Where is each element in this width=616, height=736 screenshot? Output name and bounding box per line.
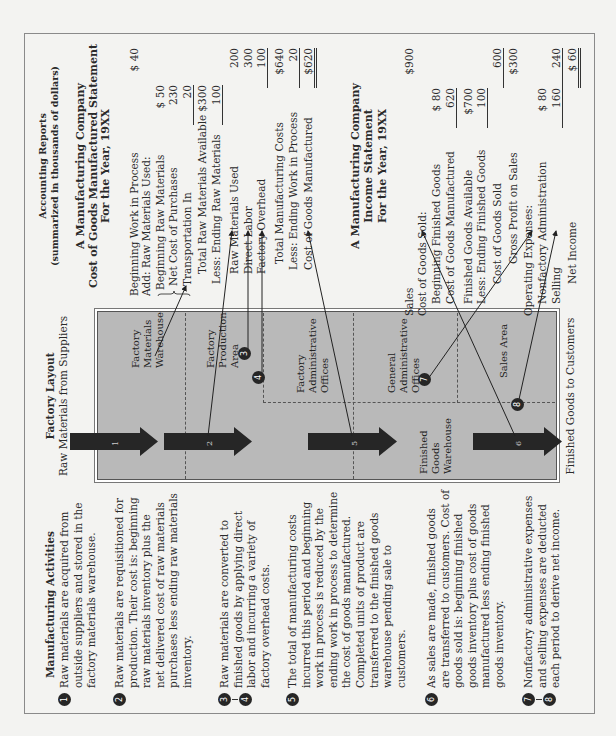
activity-line: labor and incurring a variety of	[245, 488, 259, 688]
income-heading-title: Income Statement	[363, 36, 375, 296]
activity-line: goods sold is: beginning finished	[452, 488, 466, 688]
income-row-label: Sales	[403, 288, 415, 316]
badge-1-icon: 1	[58, 693, 71, 706]
layout-title: Factory Layout	[44, 311, 56, 481]
layout-bottom-label: Finished Goods to Customers	[564, 311, 576, 481]
cgm-row-amount: 230	[167, 85, 179, 125]
area-production: Factory Production Area	[205, 312, 241, 368]
activity-line: raw materials inventory plus the	[140, 488, 154, 688]
diagram-badge-8-icon: 8	[511, 398, 524, 411]
activity-line: net delivered cost of raw materials	[154, 488, 168, 688]
income-row-label: Cost of Goods Sold	[491, 183, 503, 284]
area-factory-admin: Factory Administrative Offices	[295, 318, 331, 393]
activity-line: Completed units of product are	[354, 488, 368, 688]
cgm-row-label: Direct Labor	[242, 206, 254, 274]
diagram-badge-7-icon: 7	[418, 373, 431, 386]
cgm-row-amount: 100	[255, 48, 268, 88]
activity-line: goods inventory.	[493, 488, 507, 688]
income-row-amount: 620	[444, 88, 457, 128]
arrow-label-1: 1	[110, 441, 122, 446]
cgm-row-label: Factory Overhead	[255, 179, 267, 274]
income-row-amount: 240	[550, 48, 563, 88]
reports-title: Accounting Reports	[37, 36, 49, 296]
cgm-row-label: Total Raw Materials Available	[196, 115, 208, 274]
activity-line: factory overhead costs.	[259, 488, 273, 688]
partition-line	[263, 313, 264, 403]
activity-line: work in process is reduced by the	[313, 488, 327, 688]
activity-line: and selling expenses are deducted	[536, 488, 550, 688]
activity-line: finished goods by applying direct	[232, 488, 246, 688]
cgm-row-amount: 200	[228, 48, 240, 88]
diagram-badge-3-icon: 3	[238, 347, 251, 360]
income-row-label: Cost of Goods Sold:	[416, 212, 428, 316]
cgm-row-label: Total Manufacturing Costs	[273, 122, 285, 264]
area-general-admin: General Administrative Offices	[386, 318, 422, 393]
income-row-amount: $ 80	[536, 88, 548, 128]
area-materials-warehouse: Factory Materials Warehouse	[130, 312, 166, 368]
activity-line: Raw materials are requisitioned for	[113, 488, 127, 688]
cgm-row-amount: $640	[273, 48, 285, 88]
badge-6-icon: 6	[425, 693, 438, 706]
activity-line: The total of manufacturing costs	[286, 488, 300, 688]
cgm-row-label: Raw Materials Used	[228, 166, 240, 274]
cgm-row-label: Less: Ending Raw Materials	[210, 134, 222, 284]
arrow-label-6: 6	[513, 441, 525, 446]
income-row-label: Less: Ending Finished Goods	[475, 150, 487, 305]
activity-line: are transferred to customers. Cost of	[439, 488, 453, 688]
activity-line: incurred this period and beginning	[300, 488, 314, 688]
badge-8-icon: 8	[543, 693, 556, 706]
badge-2-icon: 2	[113, 693, 126, 706]
activity-line: Raw materials are converted to	[218, 488, 232, 688]
cgm-row-amount: $300	[196, 85, 208, 125]
cgm-row-amount: 300	[242, 48, 254, 88]
activity-line: ending work in process to determine	[327, 488, 341, 688]
activity-line: customers.	[395, 488, 409, 688]
activity-line: inventory.	[181, 488, 195, 688]
activity-line: Nonfactory administrative expenses	[522, 488, 536, 688]
cgm-row-label: Less: Ending Work in Process	[287, 112, 299, 270]
page-content-rotated: Manufacturing Activities 1 Raw materials…	[0, 0, 616, 736]
cgm-row-amount: $ 50	[154, 85, 166, 125]
cgm-heading-company: A Manufacturing Company	[75, 36, 87, 296]
activity-line: each period to derive net income.	[549, 488, 563, 688]
income-row-amount: $900	[403, 48, 415, 88]
cgm-row-amount: 100	[210, 85, 223, 125]
income-row-amount: $ 80	[430, 88, 442, 128]
income-row-label: Operating Expenses:	[522, 205, 534, 316]
area-finished-goods-warehouse: Finished Goods Warehouse	[418, 418, 454, 474]
activity-line: warehouse pending sale to	[381, 488, 395, 688]
income-row-amount: 100	[475, 88, 488, 128]
partition-line	[457, 313, 458, 403]
area-sales: Sales Area	[498, 324, 510, 378]
badge-4-icon: 4	[239, 693, 252, 706]
cgm-row-amount: $ 40	[128, 48, 140, 88]
badge-3-icon: 3	[218, 693, 231, 706]
activities-title: Manufacturing Activities	[44, 531, 56, 678]
income-row-amount: $700	[462, 88, 474, 128]
reports-subtitle: (summarized in thousands of dollars)	[49, 36, 61, 296]
cgm-row-amount: 20	[287, 48, 300, 88]
scanned-page: Manufacturing Activities 1 Raw materials…	[0, 0, 616, 736]
cgm-row-label: Transportation In	[181, 192, 193, 286]
activity-line: Raw materials are acquired from	[58, 488, 72, 688]
badge-5-icon: 5	[286, 693, 299, 706]
activity-line: goods inventory plus cost of goods	[466, 488, 480, 688]
cgm-row-label: Net Cost of Purchases	[167, 167, 179, 286]
badge-range-dash	[536, 699, 542, 700]
activity-line: factory materials warehouse.	[85, 488, 99, 688]
income-row-label: Net Income	[566, 222, 578, 284]
income-row-amount: 160	[550, 88, 563, 128]
activity-line: As sales are made, finished goods	[425, 488, 439, 688]
activity-line: manufactured less ending finished	[479, 488, 493, 688]
activity-line: outside suppliers and stored in the	[72, 488, 86, 688]
activity-line: the cost of goods manufactured.	[340, 488, 354, 688]
cgm-row-amount: 20	[181, 85, 194, 125]
income-row-label: Beginning Finished Goods	[430, 164, 442, 304]
partition-line	[353, 313, 354, 479]
diagram-badge-4-icon: 4	[252, 371, 265, 384]
income-heading-company: A Manufacturing Company	[350, 36, 362, 296]
income-row-label: Finished Goods Available	[462, 170, 474, 304]
income-row-amount: $300	[507, 48, 519, 88]
badge-7-icon: 7	[522, 693, 535, 706]
cgm-row-label: Beginning Work in Process	[128, 152, 140, 296]
